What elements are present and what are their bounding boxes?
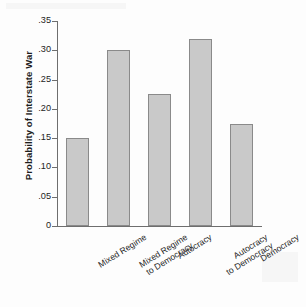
bar [189,39,212,226]
y-axis-tick-label: 0 [13,221,51,230]
y-axis-tick [52,109,57,110]
y-axis-line [57,21,58,226]
y-axis-tick-label: .15 [13,133,51,142]
y-axis-tick-label: .10 [13,162,51,171]
y-axis-tick [52,197,57,198]
y-axis-title-container: Probability of Interstate War [0,0,28,240]
y-axis-tick-label: .20 [13,104,51,113]
y-axis-tick-label: .35 [13,16,51,25]
y-axis-tick-label: .05 [13,192,51,201]
bar [107,50,130,226]
y-axis-tick [52,50,57,51]
x-axis-line [57,226,262,227]
bar [66,138,89,226]
y-axis-tick [52,80,57,81]
y-axis-tick [52,226,57,227]
bar [148,94,171,226]
y-axis-tick [52,167,57,168]
bar [230,124,253,227]
plot-area: 0.05.10.15.20.25.30.35 [57,21,262,226]
y-axis-tick-label: .30 [13,45,51,54]
y-axis-tick [52,21,57,22]
y-axis-tick [52,138,57,139]
bar-chart-figure: Probability of Interstate War 0.05.10.15… [0,0,306,307]
y-axis-tick-label: .25 [13,75,51,84]
